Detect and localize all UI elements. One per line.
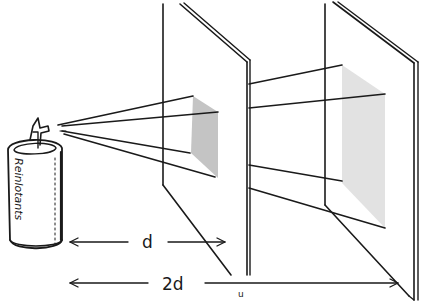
spray-can: Reinlotants	[8, 118, 62, 248]
far-screen	[325, 2, 418, 300]
label-2d: 2d	[162, 274, 184, 294]
stray-mark: u	[238, 289, 244, 299]
far-patch	[342, 65, 385, 228]
near-screen	[163, 3, 250, 275]
can-label: Reinlotants	[12, 158, 25, 221]
label-d: d	[142, 232, 153, 252]
dimension-2d: 2d u	[70, 274, 398, 299]
inverse-square-diagram: Reinlotants d 2d u	[0, 0, 422, 303]
